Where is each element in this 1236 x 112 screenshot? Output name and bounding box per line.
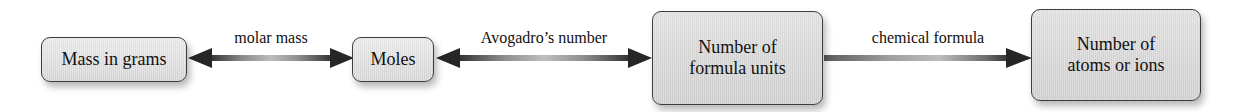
edge-label-avogadros-number: Avogadro’s number bbox=[430, 29, 658, 47]
arrow-molar-mass bbox=[188, 44, 354, 72]
edge-label-chemical-formula: chemical formula bbox=[824, 29, 1032, 47]
arrow-avogadros-number bbox=[436, 44, 652, 72]
node-number-of-formula-units: Number of formula units bbox=[652, 11, 823, 105]
node-moles: Moles bbox=[352, 37, 434, 82]
node-label-number-of-atoms-or-ions: Number of atoms or ions bbox=[1068, 34, 1165, 76]
node-label-number-of-formula-units: Number of formula units bbox=[689, 37, 786, 79]
diagram-canvas: molar mass Avogadro’s number bbox=[0, 0, 1236, 112]
node-label-mass-in-grams: Mass in grams bbox=[62, 49, 167, 70]
node-label-moles: Moles bbox=[371, 49, 416, 70]
edge-label-molar-mass: molar mass bbox=[188, 29, 354, 47]
node-mass-in-grams: Mass in grams bbox=[41, 37, 187, 82]
node-number-of-atoms-or-ions: Number of atoms or ions bbox=[1031, 9, 1201, 101]
arrow-chemical-formula bbox=[824, 44, 1032, 72]
